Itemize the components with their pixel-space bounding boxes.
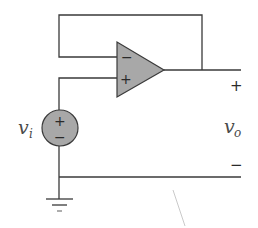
circuit-diagram: − + + − v i + v o − [0,0,258,228]
output-label-sub: o [234,126,241,140]
source-positive-sign: + [54,113,66,129]
source-label-base: v [18,116,29,138]
opamp-inverting-sign: − [121,49,133,65]
source-negative-sign: − [54,129,66,145]
source-label-sub: i [29,127,33,141]
opamp: − + [117,42,164,97]
voltage-source: + − [42,110,78,146]
opamp-noninverting-sign: + [120,71,132,87]
scan-artifact-line [173,190,185,226]
ground-icon [46,199,73,211]
output-label: + v o − [224,77,243,174]
source-label: v i [18,116,33,141]
noninverting-input-wire [59,78,117,110]
output-positive-sign: + [230,77,243,95]
output-negative-sign: − [230,156,243,174]
